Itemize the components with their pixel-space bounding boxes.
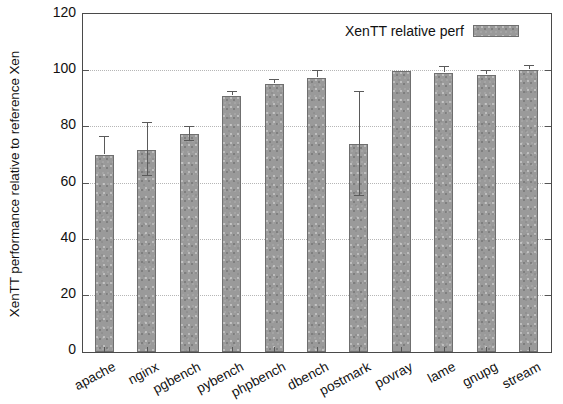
y-axis-tick-label: 20 [0,285,76,301]
bar [307,78,326,352]
y-axis-tick-label: 60 [0,173,76,189]
error-bar-cap-lower [184,140,194,141]
bar [180,134,199,352]
error-bar-line [317,70,318,77]
x-axis-tick-mark [232,347,233,352]
y-axis-tick-mark [83,126,89,127]
y-axis-tick-label: 0 [0,341,76,357]
error-bar-cap-upper [142,122,152,123]
bar [392,71,411,352]
error-bar-cap-lower [142,175,152,176]
y-axis-tick-mark [83,70,89,71]
x-axis-tick-mark [401,347,402,352]
error-bar-cap-upper [99,136,109,137]
bar [265,84,284,352]
error-bar-cap-lower [354,195,364,196]
x-axis-tick-mark [444,347,445,352]
plot-area [82,13,552,353]
x-axis-tick-mark [274,347,275,352]
y-axis-tick-mark [83,295,89,296]
plot-inner [83,14,551,352]
x-axis-tick-mark [529,347,530,352]
error-bar-cap-upper [312,70,322,71]
error-bar-cap-upper [227,91,237,92]
error-bar-line [359,91,360,195]
error-bar-cap-upper [269,79,279,80]
bar [519,70,538,352]
error-bar-cap-upper [439,66,449,67]
error-bar-cap-upper [184,126,194,127]
legend-entry-label: XenTT relative perf [345,23,464,39]
error-bar-cap-upper [354,91,364,92]
bar [477,75,496,352]
y-axis-tick-mark [83,183,89,184]
bar [222,96,241,352]
y-axis-tick-label: 100 [0,60,76,76]
y-axis-tick-mark [545,70,551,71]
bar [95,155,114,352]
error-bar-line [189,126,190,140]
x-axis-tick-mark [147,347,148,352]
error-bar-line [147,122,148,175]
y-axis-tick-mark [83,239,89,240]
chart-legend: XenTT relative perf [345,22,519,40]
x-axis-tick-mark [359,347,360,352]
error-bar-cap-upper [524,65,534,66]
error-bar-cap-upper [481,70,491,71]
x-axis-tick-mark [486,347,487,352]
bar-chart-figure: XenTT performance relative to reference … [0,0,563,404]
x-axis-category-labels: apachenginxpgbenchpybenchphpbenchdbenchp… [82,353,552,404]
y-axis-tick-mark [545,239,551,240]
y-axis-tick-mark [545,183,551,184]
x-axis-tick-mark [189,347,190,352]
x-axis-tick-mark [104,347,105,352]
error-bar-line [104,136,105,154]
y-axis-tick-label: 120 [0,4,76,20]
legend-color-swatch [473,25,519,37]
x-axis-tick-mark [317,347,318,352]
bar [137,150,156,352]
y-axis-tick-label: 80 [0,116,76,132]
y-axis-tick-mark [545,295,551,296]
bar [434,73,453,352]
y-axis-tick-label: 40 [0,229,76,245]
y-axis-tick-mark [545,126,551,127]
